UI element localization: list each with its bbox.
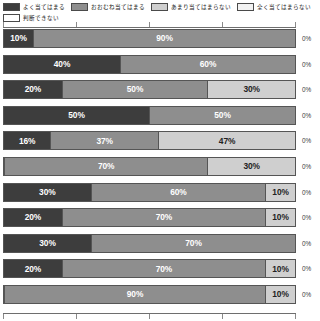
bar-segment[interactable]: 10% [265,184,295,201]
axis-tick-bottom-0 [3,314,4,319]
bar-segment-label: 60% [200,60,216,68]
bar-segment[interactable]: 70% [62,260,265,277]
legend-swatch-icon [151,3,168,11]
legend-item-3[interactable]: 全く当てはまらない [237,2,311,12]
bar-track: 16%37%47% [3,131,296,150]
bar-segment-label: 20% [25,265,41,273]
bar-row: 30%70%0% [3,234,296,253]
axis-tick-top-2 [149,22,150,27]
bar-segment[interactable]: 30% [4,184,91,201]
bar-row: 30%60%10%0% [3,183,296,202]
bar-segment-label: 30% [243,85,259,93]
bar-segment[interactable]: 10% [265,260,295,277]
bar-segment[interactable]: 37% [50,132,158,149]
bar-row: 20%70%10%0% [3,208,296,227]
bar-segment[interactable]: 10% [265,286,295,303]
bar-segment-label: 90% [127,290,143,298]
bar-segment[interactable]: 16% [4,132,50,149]
bar-track: 40%60% [3,55,296,74]
bar-segment[interactable]: 20% [4,260,62,277]
bar-row-outside-label: 0% [302,259,320,278]
axis-bottom [3,313,296,314]
axis-tick-bottom-4 [295,314,296,319]
bar-row-outside-label: 0% [302,106,320,125]
axis-tick-bottom-1 [76,314,77,319]
bar-segment-label: 10% [272,213,288,221]
bar-segment-label: 70% [98,162,114,170]
bar-row-outside-label: 0% [302,183,320,202]
legend-swatch-icon [237,3,254,11]
bar-segment-label: 30% [39,188,55,196]
bar-segment[interactable]: 60% [120,56,295,73]
bar-segment[interactable]: 60% [91,184,265,201]
bar-segment-label: 40% [54,60,70,68]
bar-segment[interactable]: 10% [4,30,33,47]
legend-item-label: おおむね当てはまる [91,3,145,11]
legend-swatch-icon [71,3,88,11]
bar-segment-label: 10% [272,188,288,196]
legend-item-1[interactable]: おおむね当てはまる [71,2,145,12]
bar-segment[interactable]: 20% [4,81,62,98]
bar-segment[interactable]: 10% [265,209,295,226]
bar-segment[interactable]: 30% [4,235,91,252]
axis-tick-top-3 [222,22,223,27]
bar-segment-label: 70% [156,213,172,221]
bar-segment[interactable]: 50% [149,107,295,124]
axis-tick-top-0 [3,22,4,27]
legend-item-2[interactable]: あまり当てはまらない [151,2,231,12]
bar-track: 30%60%10% [3,183,296,202]
bar-segment-label: 20% [25,213,41,221]
bar-row-outside-label: 0% [302,29,320,48]
bar-row: 40%60%0% [3,55,296,74]
bar-segment[interactable]: 70% [4,158,207,175]
plot-area: 10%90%0%40%60%0%20%50%30%0%50%50%0%16%37… [3,27,296,314]
bar-segment[interactable]: 70% [91,235,295,252]
bar-track: 20%70%10% [3,208,296,227]
bar-row: 20%50%30%0% [3,80,296,99]
legend-item-0[interactable]: よく当てはまる [3,2,65,12]
bar-row-outside-label: 0% [302,234,320,253]
bar-segment-label: 50% [127,85,143,93]
bar-row-outside-label: 0% [302,208,320,227]
bar-segment-label: 70% [156,265,172,273]
bar-segment[interactable]: 90% [4,286,265,303]
bar-segment[interactable]: 20% [4,209,62,226]
bar-track: 30%70% [3,234,296,253]
bar-segment-label: 50% [214,111,230,119]
bar-segment[interactable]: 30% [207,158,295,175]
bar-segment[interactable]: 30% [207,81,295,98]
bar-row: 0%90%10%0% [3,285,296,304]
bar-segment-label: 47% [219,137,235,145]
bar-track: 0%70%30% [3,157,296,176]
legend-item-4[interactable]: 判断できない [3,13,59,23]
bar-segment-label: 10% [10,34,26,42]
legend-swatch-icon [3,14,20,22]
axis-tick-top-4 [295,22,296,27]
bar-segment-label: 70% [185,239,201,247]
bar-segment-label: 37% [96,137,112,145]
bar-segment[interactable]: 50% [4,107,149,124]
bar-segment-label: 10% [272,290,288,298]
stacked-bar-chart: よく当てはまるおおむね当てはまるあまり当てはまらない全く当てはまらない判断できな… [0,0,320,321]
bar-segment[interactable]: 50% [62,81,208,98]
bar-segment-label: 50% [68,111,84,119]
bar-segment-label: 90% [156,34,172,42]
legend-swatch-icon [3,3,20,11]
bar-row-outside-label: 0% [302,131,320,150]
bar-segment[interactable]: 40% [4,56,120,73]
bar-segment[interactable]: 70% [62,209,265,226]
bar-rows: 10%90%0%40%60%0%20%50%30%0%50%50%0%16%37… [3,29,296,312]
bar-row-outside-label: 0% [302,285,320,304]
bar-track: 50%50% [3,106,296,125]
bar-segment[interactable]: 47% [158,132,295,149]
bar-row: 16%37%47%0% [3,131,296,150]
bar-track: 10%90% [3,29,296,48]
legend-item-label: よく当てはまる [23,3,65,11]
bar-segment[interactable]: 90% [33,30,295,47]
bar-segment-label: 30% [243,162,259,170]
bar-segment-label: 10% [272,265,288,273]
legend-item-label: あまり当てはまらない [171,3,231,11]
axis-tick-bottom-2 [149,314,150,319]
bar-segment-label: 30% [39,239,55,247]
bar-track: 20%50%30% [3,80,296,99]
